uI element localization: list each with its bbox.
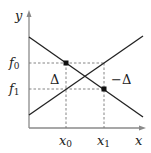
f1-label: f1 [8,81,20,97]
crossing-lines-diagram: y x f0 f1 x0 x1 Δ −Δ [0,0,151,153]
x0-label: x0 [59,133,72,149]
y-axis-label: y [14,8,23,23]
guide-lines [29,63,104,128]
point-x1-f1 [102,87,107,92]
x-axis-label: x [135,133,143,148]
f0-label: f0 [8,55,20,71]
point-x0-f0 [64,61,69,66]
axes [27,10,147,131]
negative-delta-annotation: −Δ [111,72,131,87]
delta-annotation: Δ [50,72,59,87]
x-axis-arrow-icon [139,126,146,131]
x1-label: x1 [97,133,110,149]
y-axis-arrow-icon [27,10,32,17]
